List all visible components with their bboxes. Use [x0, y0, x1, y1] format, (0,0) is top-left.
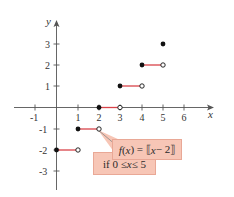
function-label-box: f(x) = ⟦x − 2⟧	[112, 139, 182, 160]
closed-point-icon	[161, 42, 166, 47]
y-tick-label: 1	[45, 81, 50, 92]
closed-point-icon	[76, 127, 81, 132]
x-tick-label: 3	[118, 112, 123, 123]
closed-point-icon	[97, 105, 102, 110]
closed-point-icon	[140, 63, 145, 68]
y-axis-label: y	[45, 15, 51, 27]
y-tick-label: -1	[39, 124, 47, 135]
x-tick-label: 6	[182, 112, 187, 123]
closed-point-icon	[54, 148, 59, 153]
x-tick-label: -1	[30, 112, 38, 123]
x-tick-label: 4	[140, 112, 145, 123]
y-tick-label: -2	[39, 145, 47, 156]
function-eq: ) = ⟦	[130, 143, 150, 156]
x-tick-label: 5	[161, 112, 166, 123]
function-rest: − 2⟧	[156, 143, 175, 156]
open-point-icon	[140, 84, 144, 88]
open-point-icon	[161, 63, 165, 67]
y-tick-label: 3	[45, 39, 50, 50]
open-point-icon	[76, 148, 80, 152]
y-tick-label: -3	[39, 166, 47, 177]
x-axis-label: x	[207, 108, 213, 120]
open-point-icon	[118, 105, 122, 109]
closed-point-icon	[118, 84, 123, 89]
open-point-icon	[97, 127, 101, 131]
x-tick-label: 1	[76, 112, 81, 123]
x-tick-label: 2	[97, 112, 102, 123]
y-tick-label: 2	[45, 60, 50, 71]
